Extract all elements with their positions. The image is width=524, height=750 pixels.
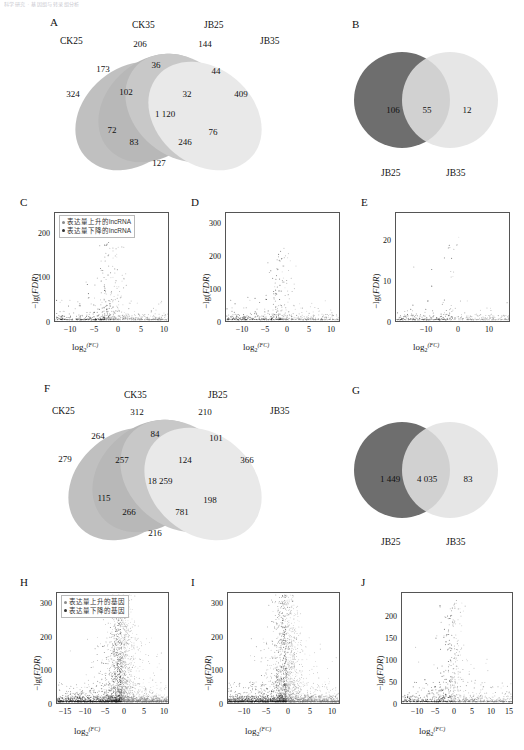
venn-a-region-jb35: 409 (234, 89, 248, 99)
figure-root: 科学研究 · 基因组与转录组分析 A CK35 JB25 CK25 JB35 2… (0, 0, 524, 750)
panel-j: J −lg(FDR) log2(FC) 0 50 100 150 200 −10… (353, 576, 524, 750)
panel-c: C 表达量上升的lncRNA 表达量下降的lncRNA −lg(FDR) log… (12, 196, 184, 364)
plot-h-xtick-3: 0 (122, 707, 126, 716)
plot-c-xtick-0: −10 (64, 325, 77, 334)
plot-e-xtick-2: 10 (485, 325, 493, 334)
plot-i-xlabel: log2(FC) (245, 726, 271, 737)
panel-d: D −lg(FDR) log2(FC) 0 100 200 300 −10 −5… (183, 196, 355, 364)
plot-j-ytick-1: 50 (389, 678, 397, 687)
plot-d-frame (225, 212, 340, 322)
plot-h-xtick-4: 5 (142, 707, 146, 716)
plot-c-ytick-0: 0 (46, 318, 50, 327)
venn-b-region-intersection: 55 (423, 105, 432, 115)
venn-g-region-intersection: 4 035 (417, 474, 437, 484)
venn-f-region-ck25-jb25-jb35: 198 (203, 495, 217, 505)
plot-d-xtick-4: 10 (327, 325, 335, 334)
plot-j-xtick-4: 10 (487, 707, 495, 716)
venn-a-label-jb35: JB35 (260, 36, 280, 46)
plot-i-ytick-3: 300 (211, 599, 223, 608)
legend-label-down: 表达量下降的lncRNA (67, 227, 131, 234)
panel-f: F CK35 JB25 CK25 JB35 312 210 264 84 101… (12, 382, 300, 558)
plot-e-xtick-1: 0 (456, 325, 460, 334)
plot-h-xtick-5: 10 (160, 707, 168, 716)
plot-h-xlabel: log2(FC) (74, 726, 100, 737)
legend-label-down-h: 表达量下降的基因 (69, 607, 125, 614)
plot-c-xlabel: log2(FC) (72, 342, 98, 353)
venn-f-region-ck25-jb35: 266 (122, 507, 136, 517)
panel-b-letter: B (352, 18, 359, 30)
plot-d-xtick-0: −10 (236, 325, 249, 334)
plot-j-points (402, 593, 512, 703)
legend-row-up-h: 表达量上升的基因 (64, 598, 125, 607)
plot-e-points (396, 213, 509, 321)
plot-i-ytick-0: 0 (219, 700, 223, 709)
panel-i-letter: I (191, 576, 195, 588)
venn-f-region-jb25: 210 (198, 407, 212, 417)
plot-d-xtick-1: −5 (261, 325, 270, 334)
plot-i-frame (227, 592, 340, 704)
plot-h-ytick-2: 200 (40, 633, 52, 642)
legend-dot-up-h-icon (64, 601, 67, 604)
plot-j-xlabel: log2(FC) (419, 726, 445, 737)
plot-i-points (228, 593, 339, 703)
legend-dot-down-h-icon (64, 609, 67, 612)
plot-c-legend: 表达量上升的lncRNA 表达量下降的lncRNA (59, 215, 135, 238)
venn-a-region-ck25-ck35-jb35: 72 (108, 125, 117, 135)
plot-j-ytick-0: 0 (393, 700, 397, 709)
venn-a-label-ck25: CK25 (60, 36, 83, 46)
venn-a-label-ck35: CK35 (132, 20, 155, 30)
panel-e-letter: E (361, 196, 368, 208)
plot-j-ytick-3: 150 (385, 634, 397, 643)
venn-f-region-jb35: 366 (240, 455, 254, 465)
plot-j-xtick-0: −10 (411, 707, 424, 716)
venn-g-label-jb25: JB25 (381, 537, 401, 547)
plot-i-xtick-3: 5 (308, 707, 312, 716)
venn-f-region-ck25-jb25: 216 (148, 528, 162, 538)
plot-d-xtick-2: 0 (285, 325, 289, 334)
plot-h-xtick-1: −10 (79, 707, 92, 716)
venn-f-region-ck35-jb25-jb35: 124 (178, 455, 192, 465)
venn-g-region-left: 1 449 (380, 474, 400, 484)
plot-i-ytick-1: 100 (211, 666, 223, 675)
venn-a-region-ck25-jb25: 127 (152, 158, 166, 168)
panel-h-letter: H (20, 576, 28, 588)
venn-a-region-ck25-jb35: 83 (130, 137, 139, 147)
plot-j-xtick-3: 5 (470, 707, 474, 716)
legend-row-down: 表达量下降的lncRNA (62, 227, 131, 236)
running-header: 科学研究 · 基因组与转录组分析 (4, 0, 204, 7)
plot-d-ytick-0: 0 (217, 318, 221, 327)
venn-f-region-ck25-ck35-jb35: 115 (97, 493, 110, 503)
venn-a-region-ck35-jb25: 36 (152, 60, 161, 70)
plot-j-frame (401, 592, 513, 704)
venn-a-region-ck35: 206 (133, 39, 147, 49)
legend-row-down-h: 表达量下降的基因 (64, 607, 125, 616)
panel-g: G 1 449 4 035 83 JB25 JB35 (340, 382, 520, 558)
plot-j-ytick-2: 100 (385, 656, 397, 665)
plot-e-ytick-2: 20 (383, 236, 391, 245)
plot-d-ytick-2: 200 (209, 252, 221, 261)
venn-b-region-left: 106 (386, 105, 400, 115)
plot-e-ytick-1: 10 (383, 277, 391, 286)
venn-f-label-ck35: CK35 (124, 390, 147, 400)
venn-a-label-jb25: JB25 (204, 20, 224, 30)
venn-f-label-jb25: JB25 (208, 390, 228, 400)
plot-i-xtick-2: 0 (286, 707, 290, 716)
plot-i-xtick-1: −5 (262, 707, 271, 716)
plot-h-ytick-1: 100 (40, 666, 52, 675)
venn-a-region-ck35-jb25-jb35: 32 (183, 89, 192, 99)
venn-f-region-ck25-ck35-jb25: 257 (115, 455, 129, 465)
plot-h-legend: 表达量上升的基因 表达量下降的基因 (61, 595, 129, 618)
panel-c-letter: C (20, 196, 27, 208)
plot-h-ytick-0: 0 (48, 700, 52, 709)
legend-label-up: 表达量上升的lncRNA (67, 218, 131, 225)
venn-b-region-right: 12 (463, 105, 472, 115)
plot-j-ylabel: −lg(FDR) (375, 655, 385, 691)
panel-h: H 表达量上升的基因 表达量下降的基因 −lg(FDR) log2(FC) 0 … (12, 576, 184, 750)
plot-e-ytick-0: 0 (387, 318, 391, 327)
plot-c-xtick-4: 10 (160, 325, 168, 334)
legend-dot-up-icon (62, 221, 65, 224)
plot-e-xlabel: log2(FC) (413, 342, 439, 353)
plot-e-frame (395, 212, 510, 322)
plot-i-xtick-4: 10 (328, 707, 336, 716)
venn-f-region-jb25-jb35: 101 (209, 433, 223, 443)
